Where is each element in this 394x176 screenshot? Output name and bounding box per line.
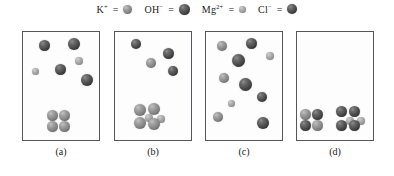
- ion-sphere: [349, 106, 360, 117]
- panel-b: [114, 31, 192, 141]
- ion-sphere: [228, 100, 235, 107]
- ion-sphere: [246, 38, 257, 49]
- ion-sphere: [257, 117, 269, 129]
- ion-sphere: [55, 64, 66, 75]
- ion-sphere: [232, 54, 245, 67]
- ion-sphere: [266, 52, 274, 60]
- ion-sphere: [47, 121, 58, 132]
- ion-sphere: [217, 41, 227, 51]
- ion-sphere: [213, 112, 223, 122]
- ion-sphere: [47, 110, 58, 121]
- ion-sphere: [32, 68, 39, 75]
- ion-sphere: [39, 40, 50, 51]
- ion-sphere: [349, 120, 360, 131]
- ion-sphere: [75, 57, 83, 65]
- ion-sphere: [68, 38, 80, 50]
- ion-sphere: [312, 120, 323, 131]
- ion-sphere: [134, 117, 146, 129]
- ion-sphere: [300, 109, 311, 120]
- ion-sphere: [59, 110, 70, 121]
- ion-sphere: [239, 78, 252, 91]
- ion-sphere: [257, 92, 267, 102]
- panel-c-label: (c): [205, 146, 283, 157]
- ion-sphere: [300, 120, 311, 131]
- ion-sphere: [59, 121, 70, 132]
- panel-d: [296, 31, 374, 141]
- ion-sphere: [219, 73, 229, 83]
- ion-sphere: [148, 118, 160, 130]
- panel-d-label: (d): [296, 146, 374, 157]
- panel-grid: (a)(b)(c)(d): [0, 0, 394, 176]
- panel-b-label: (b): [114, 146, 192, 157]
- ion-sphere: [146, 58, 156, 68]
- panel-a-label: (a): [22, 146, 100, 157]
- ion-sphere: [131, 39, 141, 49]
- ion-sphere: [163, 48, 174, 59]
- ion-sphere: [168, 66, 178, 76]
- ion-sphere: [336, 120, 347, 131]
- ion-sphere: [312, 109, 323, 120]
- ion-sphere: [336, 106, 347, 117]
- ion-sphere: [81, 74, 93, 86]
- ion-sphere: [134, 104, 146, 116]
- panel-c: [205, 31, 283, 141]
- panel-a: [22, 31, 100, 141]
